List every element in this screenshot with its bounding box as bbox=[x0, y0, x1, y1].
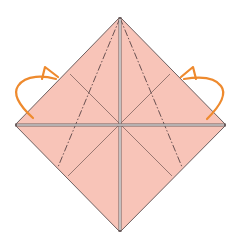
origami-diagram bbox=[0, 0, 242, 246]
diagram-svg bbox=[0, 0, 242, 246]
